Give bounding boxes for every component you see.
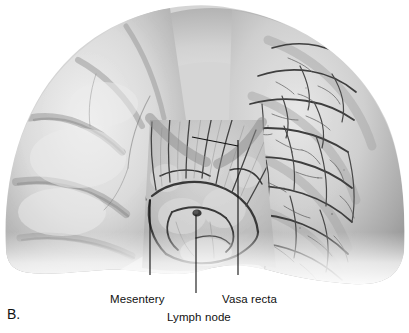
label-vasa-recta: Vasa recta <box>222 293 277 305</box>
intestine-mesentery-illustration <box>0 0 409 333</box>
label-lymph-node: Lymph node <box>167 311 231 323</box>
lower-border-fade <box>0 232 409 288</box>
lymph-node <box>192 209 201 216</box>
figure-panel-b: Mesentery Lymph node Vasa recta B. <box>0 0 409 333</box>
panel-letter: B. <box>7 306 20 322</box>
label-mesentery: Mesentery <box>110 293 165 305</box>
specimen-body <box>0 0 409 333</box>
